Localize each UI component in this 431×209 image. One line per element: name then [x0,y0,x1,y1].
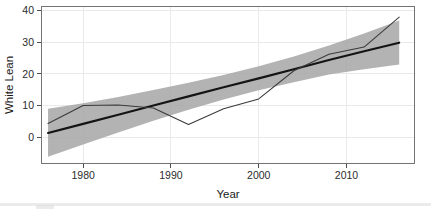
y-tick-label: 0 [28,131,34,143]
scan-artifacts [0,203,431,209]
y-axis-ticks: 010203040 [22,4,41,142]
x-axis-title: Year [216,188,239,200]
chart-container: 1980199020002010 010203040 Year White Le… [0,0,431,209]
white-lean-trend-chart: 1980199020002010 010203040 Year White Le… [0,0,431,209]
x-tick-label: 2000 [247,169,271,181]
x-tick-label: 1990 [159,169,183,181]
y-tick-label: 20 [22,68,34,80]
y-tick-label: 10 [22,99,34,111]
y-tick-label: 30 [22,36,34,48]
x-axis-ticks: 1980199020002010 [71,164,358,181]
x-tick-label: 1980 [71,169,95,181]
x-tick-label: 2010 [335,169,359,181]
y-tick-label: 40 [22,4,34,16]
y-axis-title: White Lean [3,56,15,114]
